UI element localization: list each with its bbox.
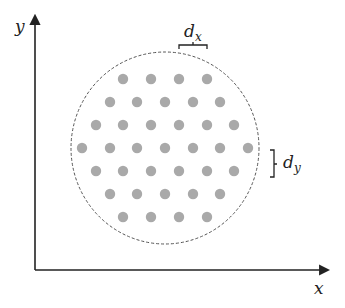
grid-dot — [215, 97, 225, 107]
grid-dot — [118, 166, 128, 176]
grid-dot — [105, 97, 115, 107]
grid-dot — [91, 120, 101, 130]
grid-dot — [188, 143, 198, 153]
grid-dot — [174, 212, 184, 222]
grid-dot — [215, 189, 225, 199]
grid-dot — [243, 143, 253, 153]
grid-dot — [160, 143, 170, 153]
grid-dot — [202, 166, 212, 176]
grid-dot — [146, 74, 156, 84]
grid-dot — [146, 120, 156, 130]
grid-dot — [105, 189, 115, 199]
grid-dot — [229, 166, 239, 176]
grid-dot — [174, 166, 184, 176]
grid-dot — [118, 74, 128, 84]
grid-dot — [118, 212, 128, 222]
grid-dot — [174, 120, 184, 130]
grid-dot — [202, 212, 212, 222]
grid-dot — [202, 74, 212, 84]
grid-dot — [160, 189, 170, 199]
grid-dot — [188, 97, 198, 107]
grid-dot — [202, 120, 212, 130]
dy-bracket — [270, 150, 277, 177]
dx-label: dx — [184, 21, 202, 44]
dx-bracket — [179, 42, 207, 49]
grid-dot — [132, 189, 142, 199]
x-axis-label: x — [314, 278, 324, 298]
grid-dot — [160, 97, 170, 107]
grid-dot — [132, 143, 142, 153]
grid-dot — [146, 212, 156, 222]
dx-annotation: dx — [179, 21, 207, 49]
dy-label: dy — [283, 152, 301, 175]
grid-dot — [188, 189, 198, 199]
grid-dot — [105, 143, 115, 153]
grid-dot — [118, 120, 128, 130]
y-axis-label: y — [14, 16, 25, 36]
grid-dot — [77, 143, 87, 153]
hexagonal-dot-grid-diagram: y x dx dy — [0, 0, 345, 308]
dy-annotation: dy — [270, 150, 301, 177]
grid-dot — [132, 97, 142, 107]
grid-dot — [146, 166, 156, 176]
dot-grid — [77, 74, 253, 222]
grid-dot — [91, 166, 101, 176]
grid-dot — [215, 143, 225, 153]
grid-dot — [174, 74, 184, 84]
grid-dot — [229, 120, 239, 130]
